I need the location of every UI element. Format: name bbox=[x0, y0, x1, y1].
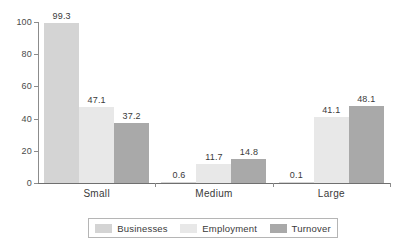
y-tick-label: 0 bbox=[27, 178, 32, 188]
bar-slot: 47.1 bbox=[79, 22, 114, 183]
x-category-label: Large bbox=[318, 188, 345, 199]
x-category-label: Medium bbox=[195, 188, 232, 199]
bar[interactable] bbox=[196, 164, 231, 183]
bar-value-label: 99.3 bbox=[52, 11, 70, 21]
bar-value-label: 41.1 bbox=[322, 105, 340, 115]
bar[interactable] bbox=[79, 107, 114, 183]
bar[interactable] bbox=[114, 123, 149, 183]
bar[interactable] bbox=[349, 106, 384, 183]
bar[interactable] bbox=[279, 182, 314, 183]
bar-slot: 48.1 bbox=[349, 22, 384, 183]
bar-slot: 37.2 bbox=[114, 22, 149, 183]
bar-value-label: 47.1 bbox=[87, 95, 105, 105]
y-tick-label: 40 bbox=[22, 114, 32, 124]
bar-group: 0.611.714.8 bbox=[155, 22, 272, 183]
bar-slot: 0.6 bbox=[161, 22, 196, 183]
legend-swatch bbox=[95, 224, 112, 233]
x-axis-line bbox=[38, 183, 390, 184]
bar-value-label: 0.6 bbox=[172, 170, 185, 180]
bar-slot: 11.7 bbox=[196, 22, 231, 183]
x-category-label: Small bbox=[83, 188, 110, 199]
legend-swatch bbox=[180, 224, 197, 233]
bar-slot: 14.8 bbox=[231, 22, 266, 183]
legend-item[interactable]: Businesses bbox=[95, 223, 168, 234]
bar-value-label: 11.7 bbox=[205, 152, 223, 162]
bar-group: 99.347.137.2 bbox=[38, 22, 155, 183]
legend-label: Turnover bbox=[292, 223, 331, 234]
x-tick-mark bbox=[155, 183, 156, 187]
bar[interactable] bbox=[314, 117, 349, 183]
bar-chart: 020406080100 99.347.137.20.611.714.80.14… bbox=[0, 0, 417, 246]
bar-group: 0.141.148.1 bbox=[273, 22, 390, 183]
bar-slot: 41.1 bbox=[314, 22, 349, 183]
chart-legend: BusinessesEmploymentTurnover bbox=[88, 218, 338, 238]
bar-slot: 99.3 bbox=[44, 22, 79, 183]
bar-value-label: 37.2 bbox=[122, 111, 140, 121]
y-tick-label: 20 bbox=[22, 146, 32, 156]
legend-label: Businesses bbox=[117, 223, 168, 234]
bar[interactable] bbox=[161, 182, 196, 183]
legend-item[interactable]: Employment bbox=[180, 223, 257, 234]
y-tick-label: 80 bbox=[22, 49, 32, 59]
x-tick-mark bbox=[390, 183, 391, 187]
legend-label: Employment bbox=[202, 223, 257, 234]
bar-value-label: 0.1 bbox=[290, 170, 303, 180]
bar[interactable] bbox=[44, 23, 79, 183]
bar-value-label: 14.8 bbox=[240, 147, 258, 157]
legend-swatch bbox=[270, 224, 287, 233]
y-tick-label: 100 bbox=[16, 17, 32, 27]
legend-item[interactable]: Turnover bbox=[270, 223, 331, 234]
x-tick-mark bbox=[273, 183, 274, 187]
bar-value-label: 48.1 bbox=[357, 94, 375, 104]
y-tick-label: 60 bbox=[22, 81, 32, 91]
bar[interactable] bbox=[231, 159, 266, 183]
bar-slot: 0.1 bbox=[279, 22, 314, 183]
